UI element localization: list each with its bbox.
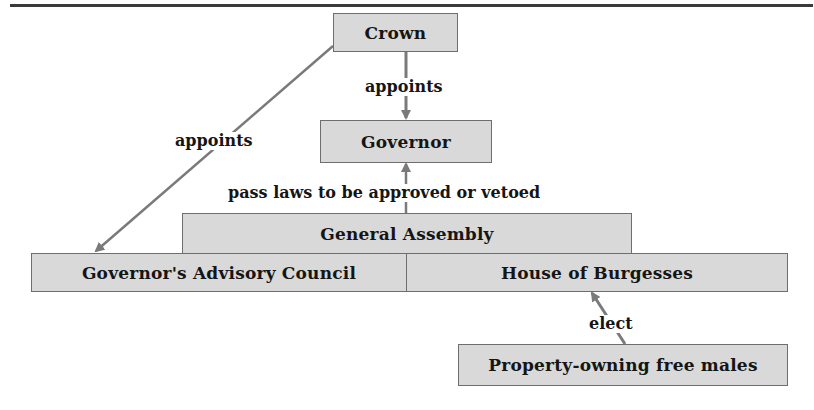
node-governor-label: Governor xyxy=(361,132,451,152)
node-crown: Crown xyxy=(333,13,458,52)
edge-label-males-burgesses: elect xyxy=(587,315,635,333)
node-free-males: Property-owning free males xyxy=(458,344,788,386)
node-house-of-burgesses: House of Burgesses xyxy=(406,253,788,292)
node-governor: Governor xyxy=(320,120,492,163)
edge-label-crown-governor: appoints xyxy=(363,78,445,96)
node-advisory-council: Governor's Advisory Council xyxy=(31,253,407,292)
node-general-assembly-label: General Assembly xyxy=(320,224,493,244)
node-crown-label: Crown xyxy=(365,23,427,43)
edge-label-crown-council: appoints xyxy=(173,132,255,150)
node-house-of-burgesses-label: House of Burgesses xyxy=(501,263,693,283)
node-free-males-label: Property-owning free males xyxy=(488,355,757,375)
edge-label-assembly-governor: pass laws to be approved or vetoed xyxy=(226,184,542,202)
node-advisory-council-label: Governor's Advisory Council xyxy=(82,263,356,283)
node-general-assembly: General Assembly xyxy=(182,213,632,254)
